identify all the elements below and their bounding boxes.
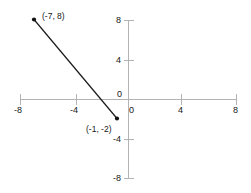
y-tick-label--8: -8 bbox=[113, 174, 121, 183]
x-tick-label-4: 4 bbox=[178, 106, 183, 115]
x-tick-label-8: 8 bbox=[233, 106, 238, 115]
y-tick-label-0: 0 bbox=[117, 90, 122, 99]
y-tick-label-8: 8 bbox=[116, 16, 121, 25]
x-tick-label--4: -4 bbox=[70, 106, 78, 115]
data-line-segment bbox=[34, 20, 117, 119]
point-label-upper: (-7, 8) bbox=[42, 12, 65, 21]
point-label-lower: (-1, -2) bbox=[86, 125, 112, 134]
data-point-marker-2 bbox=[115, 116, 119, 120]
data-point-marker-1 bbox=[32, 17, 36, 21]
x-tick-label-0: 0 bbox=[129, 106, 134, 115]
y-tick-label--4: -4 bbox=[113, 135, 121, 144]
coordinate-plane-plot: -8 -4 0 4 8 8 4 0 -4 -8 (-7, 8) (-1, -2) bbox=[0, 0, 251, 193]
x-tick-label--8: -8 bbox=[14, 106, 22, 115]
y-tick-label-4: 4 bbox=[116, 56, 121, 65]
plot-canvas bbox=[0, 0, 251, 193]
